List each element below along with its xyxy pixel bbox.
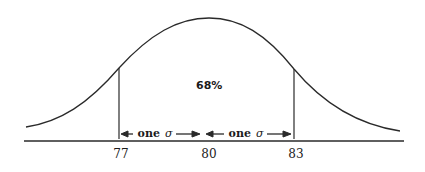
span-word: one — [138, 127, 160, 140]
right-span-label: oneσ — [229, 127, 264, 140]
normal-curve — [26, 18, 400, 131]
sigma-symbol: σ — [165, 127, 173, 140]
area-percentage-label: 68% — [196, 79, 222, 92]
left-span-label: oneσ — [138, 127, 173, 140]
sigma-symbol: σ — [256, 127, 264, 140]
span-word: one — [229, 127, 251, 140]
x-tick-label-83: 83 — [288, 147, 303, 161]
x-tick-label-80: 80 — [201, 147, 216, 161]
x-tick-label-77: 77 — [113, 147, 128, 161]
